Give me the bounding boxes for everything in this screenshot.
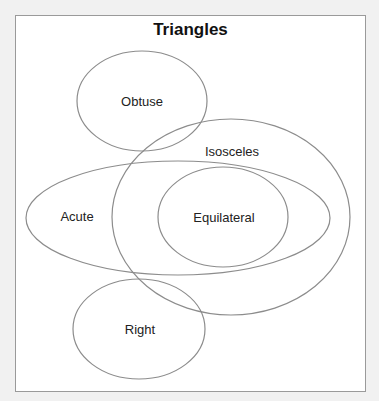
label-acute: Acute (60, 209, 93, 224)
label-obtuse: Obtuse (121, 94, 163, 109)
label-equilateral: Equilateral (193, 210, 254, 225)
label-right: Right (125, 322, 155, 337)
diagram-title: Triangles (15, 20, 366, 40)
venn-svg (0, 0, 379, 401)
label-isosceles: Isosceles (205, 144, 259, 159)
